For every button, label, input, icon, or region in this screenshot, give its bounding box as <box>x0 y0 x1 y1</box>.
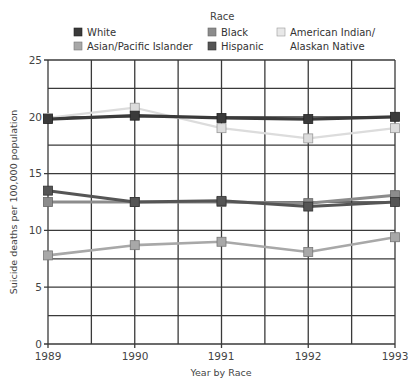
data-point <box>130 241 139 250</box>
data-point <box>304 134 313 143</box>
y-tick-5: 5 <box>35 281 42 293</box>
data-point <box>304 115 313 124</box>
data-point <box>44 115 53 124</box>
data-point <box>391 112 400 121</box>
legend-label-black: Black <box>221 27 248 38</box>
data-point <box>304 202 313 211</box>
x-tick-1991: 1991 <box>208 350 235 362</box>
x-tick-1990: 1990 <box>122 350 149 362</box>
y-tick-20: 20 <box>29 111 42 123</box>
y-tick-0: 0 <box>35 338 42 350</box>
legend: Race White Asian/Pacific Islander Black … <box>74 11 376 52</box>
data-point <box>44 251 53 260</box>
data-point <box>217 237 226 246</box>
data-point <box>391 233 400 242</box>
y-tick-15: 15 <box>29 167 42 179</box>
data-point <box>304 247 313 256</box>
line-chart: Race White Asian/Pacific Islander Black … <box>0 0 415 387</box>
x-axis-ticks: 1989 1990 1991 1992 1993 <box>35 350 409 362</box>
legend-label-white: White <box>87 27 116 38</box>
data-point <box>217 124 226 133</box>
x-tick-1992: 1992 <box>295 350 322 362</box>
x-tick-1993: 1993 <box>382 350 409 362</box>
legend-swatch-asian <box>74 42 82 50</box>
data-point <box>44 186 53 195</box>
y-axis-label: Suicide deaths per 100,000 population <box>8 110 19 295</box>
legend-label-hispanic: Hispanic <box>221 41 264 52</box>
legend-swatch-black <box>208 28 216 36</box>
data-point <box>391 198 400 207</box>
legend-swatch-white <box>74 28 82 36</box>
y-tick-25: 25 <box>29 54 42 66</box>
data-point <box>44 198 53 207</box>
x-tick-1989: 1989 <box>35 350 62 362</box>
y-axis-ticks: 0 5 10 15 20 25 <box>29 54 42 350</box>
legend-label-american-indian-1: American Indian/ <box>290 27 376 38</box>
x-axis-label: Year by Race <box>189 367 251 378</box>
y-tick-10: 10 <box>29 224 42 236</box>
data-point <box>391 124 400 133</box>
legend-label-american-indian-2: Alaskan Native <box>290 41 365 52</box>
legend-swatch-american-indian <box>277 28 285 36</box>
data-point <box>130 198 139 207</box>
legend-swatch-hispanic <box>208 42 216 50</box>
data-point <box>217 113 226 122</box>
data-point <box>130 111 139 120</box>
legend-label-asian: Asian/Pacific Islander <box>87 41 194 52</box>
data-point <box>217 196 226 205</box>
legend-title: Race <box>210 11 235 22</box>
